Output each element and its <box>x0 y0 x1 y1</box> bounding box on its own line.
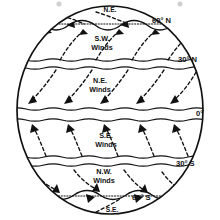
scan-specks <box>57 2 182 6</box>
wind-label-ne-trades-line2: Winds <box>89 85 111 94</box>
wind-label-nw-south: N.W. Winds <box>93 167 115 185</box>
wind-label-nw-south-line2: Winds <box>93 176 115 185</box>
latitude-label-60n: 60° N <box>152 16 171 25</box>
wind-label-sw-north-line2: Winds <box>91 43 113 52</box>
latitude-label-60s: 60° S <box>132 193 151 202</box>
wind-label-ne-trades-line1: N.E. <box>93 76 107 85</box>
wind-label-polar-se-south: S.E. <box>106 206 119 213</box>
wind-belts-diagram: 60° N 30° N 0° 30° S 60° S N.E. S.W. Win… <box>0 0 220 220</box>
wind-label-se-trades-line1: S.E. <box>99 131 113 140</box>
wind-label-sw-north-line1: S.W. <box>94 34 109 43</box>
latitude-label-30n: 30° N <box>178 55 197 64</box>
globe-illustration: 60° N 30° N 0° 30° S 60° S N.E. S.W. Win… <box>0 0 220 220</box>
latitude-label-equator: 0° <box>196 109 203 118</box>
wind-label-sw-north: S.W. Winds <box>91 34 113 52</box>
wind-label-se-trades-line2: Winds <box>95 140 117 149</box>
latitude-label-30s: 30° S <box>176 159 195 168</box>
wind-label-polar-ne-north: N.E. <box>104 6 117 13</box>
wind-label-nw-south-line1: N.W. <box>96 167 112 176</box>
